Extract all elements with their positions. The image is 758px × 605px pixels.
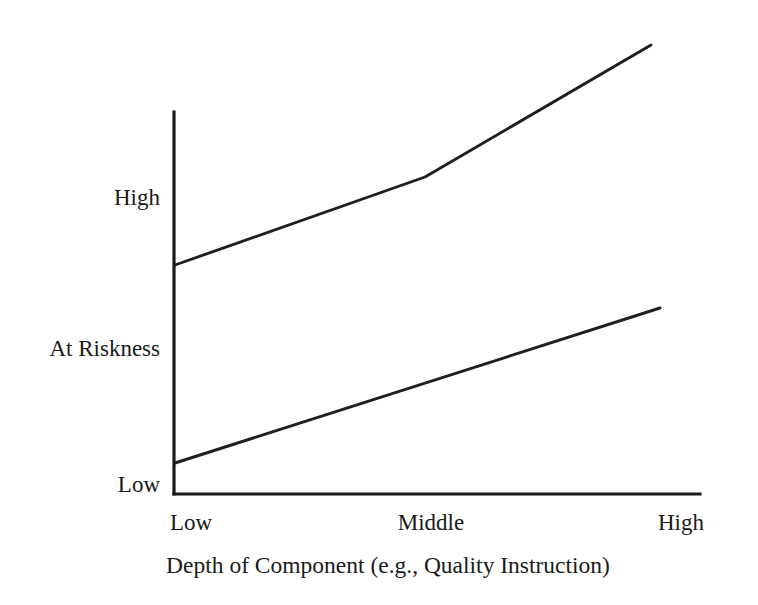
- series-upper-line: [175, 45, 651, 265]
- chart-plot-area: [0, 0, 758, 605]
- series-lower-line: [175, 308, 660, 463]
- x-axis-title: Depth of Component (e.g., Quality Instru…: [166, 554, 610, 578]
- x-tick-label-low: Low: [170, 511, 212, 534]
- x-tick-label-middle: Middle: [398, 511, 464, 534]
- chart-figure: High At Riskness Low Low Middle High Dep…: [0, 0, 758, 605]
- y-tick-label-high: High: [114, 186, 160, 209]
- y-tick-label-low: Low: [118, 473, 160, 496]
- x-tick-label-high: High: [658, 511, 704, 534]
- y-tick-label-at-riskness: At Riskness: [49, 337, 160, 360]
